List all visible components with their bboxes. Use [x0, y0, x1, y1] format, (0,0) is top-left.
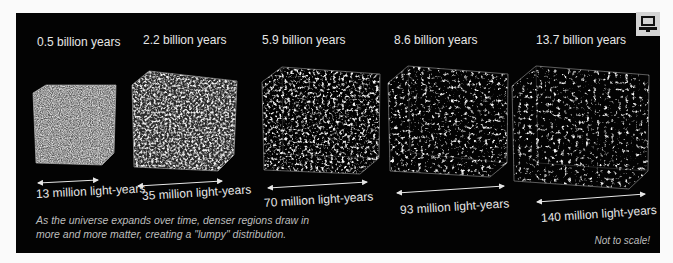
caption-line-1: As the universe expands over time, dense…: [36, 213, 309, 227]
figure-caption: As the universe expands over time, dense…: [36, 213, 309, 241]
figure-panel: 0.5 billion years 2.2 billion years 5.9 …: [16, 13, 660, 253]
scale-arrow-3: [268, 182, 367, 188]
scale-note: Not to scale!: [594, 235, 650, 246]
scale-arrow-1: [38, 180, 98, 183]
computer-icon[interactable]: [636, 12, 660, 36]
scale-arrow-5: [537, 194, 645, 202]
caption-line-2: more and more matter, creating a "lumpy"…: [36, 227, 309, 241]
scale-arrow-4: [397, 186, 504, 193]
